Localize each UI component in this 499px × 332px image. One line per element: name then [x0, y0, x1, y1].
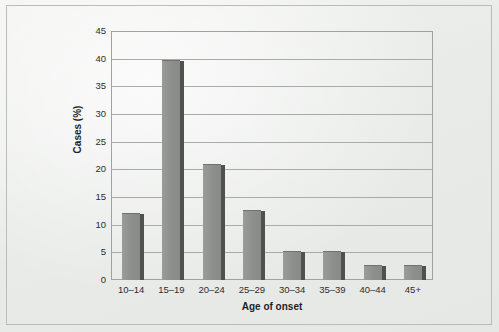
bar-shadow-edge — [422, 266, 426, 280]
bar-top-edge — [162, 60, 180, 61]
bar-shadow-edge — [180, 61, 184, 280]
bar-top-edge — [364, 265, 382, 266]
x-axis-tick-label: 35–39 — [309, 284, 355, 295]
bar — [364, 266, 382, 280]
bar-shadow-edge — [221, 165, 225, 280]
bar — [203, 165, 221, 280]
bar-shadow-edge — [382, 266, 386, 280]
bar-top-edge — [243, 210, 261, 211]
x-axis-tick-label: 40–44 — [350, 284, 396, 295]
x-axis-tick-label: 10–14 — [108, 284, 154, 295]
y-axis-tick-label: 45 — [84, 26, 106, 36]
bar — [323, 252, 341, 280]
bar-shadow-edge — [140, 214, 144, 280]
y-axis-tick-label: 0 — [84, 275, 106, 285]
x-axis-tick-label: 45+ — [390, 284, 436, 295]
bars-layer — [111, 31, 433, 280]
bar-shadow-edge — [301, 252, 305, 280]
bar-top-edge — [122, 213, 140, 214]
bar — [162, 61, 180, 280]
x-axis-tick-label: 25–29 — [229, 284, 275, 295]
bar — [404, 266, 422, 280]
bar-shadow-edge — [261, 211, 265, 280]
bar-top-edge — [404, 265, 422, 266]
bar-top-edge — [283, 251, 301, 252]
bar — [243, 211, 261, 280]
chart-figure: Cases (%) 051015202530354045 10–1415–192… — [0, 0, 499, 332]
y-axis-tick-label: 10 — [84, 220, 106, 230]
x-axis-tick-label: 30–34 — [269, 284, 315, 295]
bar-shadow-edge — [341, 252, 345, 280]
bar-top-edge — [323, 251, 341, 252]
y-axis-tick-label: 5 — [84, 247, 106, 257]
x-axis-tick-label: 20–24 — [189, 284, 235, 295]
y-axis-tick-labels: 051015202530354045 — [84, 31, 106, 280]
x-axis-tick-labels: 10–1415–1920–2425–2930–3435–3940–4445+ — [111, 284, 433, 300]
x-axis-title: Age of onset — [111, 301, 433, 312]
y-axis-tick-label: 40 — [84, 54, 106, 64]
bar — [283, 252, 301, 280]
y-axis-tick-label: 30 — [84, 109, 106, 119]
bar — [122, 214, 140, 280]
bar-top-edge — [203, 164, 221, 165]
y-axis-tick-label: 25 — [84, 137, 106, 147]
y-axis-tick-label: 15 — [84, 192, 106, 202]
x-axis-tick-label: 15–19 — [148, 284, 194, 295]
y-axis-tick-label: 35 — [84, 81, 106, 91]
y-axis-title: Cases (%) — [72, 106, 83, 154]
y-axis-tick-label: 20 — [84, 164, 106, 174]
